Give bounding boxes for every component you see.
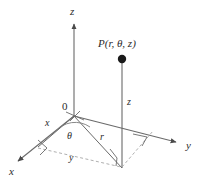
radius-r-label: r [100, 132, 104, 142]
right-angle-marker-base [110, 149, 117, 166]
origin-label: 0 [62, 101, 68, 112]
point-label: P(r, θ, z) [98, 38, 136, 49]
origin-marker [66, 111, 84, 121]
y-axis-label: y [186, 140, 191, 151]
cylindrical-coordinates-figure: z y x 0 P(r, θ, z) z r θ x y [0, 0, 221, 181]
x-axis-label: x [9, 166, 14, 177]
diagram-canvas [0, 0, 221, 181]
y-axis-line [74, 116, 176, 142]
x-component-label: x [45, 118, 49, 128]
height-z-label: z [127, 97, 131, 107]
point-P-marker [118, 55, 126, 63]
y-projection-dashed [38, 148, 121, 167]
foot-to-y-axis-dashed [122, 131, 153, 167]
y-component-label: y [69, 153, 73, 163]
theta-label: θ [67, 131, 72, 141]
right-angle-marker-x [38, 140, 47, 155]
z-axis-label: z [70, 6, 74, 17]
radius-segment [74, 116, 122, 168]
right-angle-marker-y [133, 134, 147, 146]
